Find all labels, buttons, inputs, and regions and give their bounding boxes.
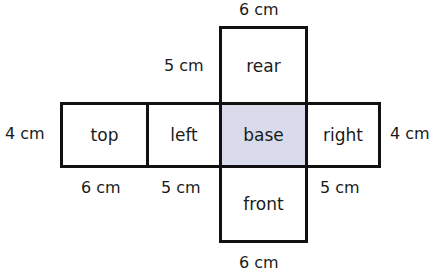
dim-left-height: 4 cm [5, 124, 45, 143]
dim-bottom-width: 6 cm [239, 253, 279, 271]
face-label-base: base [243, 125, 284, 145]
face-left: left [146, 102, 222, 168]
dim-left-face-width: 5 cm [161, 178, 201, 197]
face-label-left: left [170, 125, 198, 145]
face-right: right [305, 102, 381, 168]
face-label-top: top [91, 125, 119, 145]
dim-top-face-width: 6 cm [81, 178, 121, 197]
face-top: top [60, 102, 149, 168]
dim-right-face-width: 5 cm [320, 178, 360, 197]
dim-top-width: 6 cm [239, 0, 279, 19]
face-rear: rear [219, 26, 308, 105]
face-label-front: front [243, 194, 283, 214]
face-label-rear: rear [246, 56, 280, 76]
dim-rear-height: 5 cm [164, 56, 204, 75]
face-base: base [219, 102, 308, 168]
face-front: front [219, 165, 308, 243]
face-label-right: right [323, 125, 363, 145]
dim-right-height: 4 cm [390, 124, 430, 143]
